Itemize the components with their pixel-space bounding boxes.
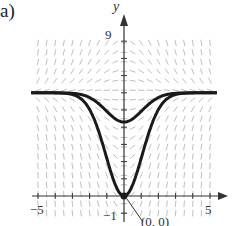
y-axis-label: y xyxy=(113,0,119,15)
point-annotation: (0, 0) xyxy=(141,214,169,226)
x-axis-arrow-icon xyxy=(218,192,228,200)
slope-field-plot xyxy=(0,0,233,226)
y-axis-arrow-icon xyxy=(120,14,128,26)
origin-point xyxy=(121,193,128,200)
y-tick-top: 9 xyxy=(105,27,112,43)
x-tick-min: −5 xyxy=(30,202,44,218)
y-tick-bottom: −1 xyxy=(103,208,117,224)
x-tick-max: 5 xyxy=(205,202,212,218)
